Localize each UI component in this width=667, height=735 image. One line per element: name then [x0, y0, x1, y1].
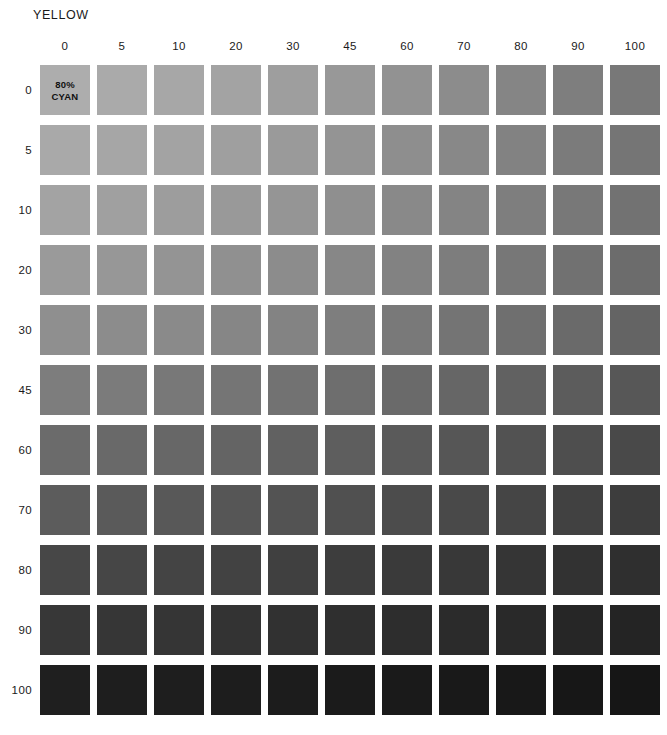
row-header-100: 100: [0, 665, 32, 715]
swatch-y20-m100: [211, 665, 261, 715]
swatch-y90-m70: [553, 485, 603, 535]
swatch-y60-m10: [382, 185, 432, 235]
swatch-y80-m10: [496, 185, 546, 235]
swatch-y70-m100: [439, 665, 489, 715]
swatch-y70-m10: [439, 185, 489, 235]
swatch-y45-m80: [325, 545, 375, 595]
swatch-y100-m10: [610, 185, 660, 235]
swatch-y60-m100: [382, 665, 432, 715]
swatch-y5-m70: [97, 485, 147, 535]
swatch-y5-m10: [97, 185, 147, 235]
swatch-y100-m60: [610, 425, 660, 475]
swatch-y80-m20: [496, 245, 546, 295]
swatch-y45-m5: [325, 125, 375, 175]
swatch-y45-m0: [325, 65, 375, 115]
swatch-y30-m30: [268, 305, 318, 355]
swatch-y45-m100: [325, 665, 375, 715]
swatch-y10-m70: [154, 485, 204, 535]
swatch-y30-m10: [268, 185, 318, 235]
page-title: YELLOW: [33, 8, 89, 22]
swatch-y80-m60: [496, 425, 546, 475]
swatch-y0-m30: [40, 305, 90, 355]
swatch-grid: 80%CYAN: [40, 65, 660, 730]
swatch-y20-m90: [211, 605, 261, 655]
row-header-45: 45: [0, 365, 32, 415]
swatch-y5-m80: [97, 545, 147, 595]
swatch-y5-m90: [97, 605, 147, 655]
column-header-0: 0: [40, 40, 90, 52]
swatch-y80-m80: [496, 545, 546, 595]
swatch-y90-m90: [553, 605, 603, 655]
swatch-y90-m80: [553, 545, 603, 595]
column-header-10: 10: [154, 40, 204, 52]
swatch-y70-m80: [439, 545, 489, 595]
swatch-y60-m60: [382, 425, 432, 475]
base-ink-label-line1: 80%: [40, 79, 90, 91]
swatch-y100-m5: [610, 125, 660, 175]
row-header-90: 90: [0, 605, 32, 655]
swatch-y60-m20: [382, 245, 432, 295]
swatch-y0-m70: [40, 485, 90, 535]
base-ink-label-line2: CYAN: [40, 90, 90, 102]
swatch-y30-m60: [268, 425, 318, 475]
swatch-y10-m0: [154, 65, 204, 115]
swatch-y80-m5: [496, 125, 546, 175]
swatch-y60-m80: [382, 545, 432, 595]
swatch-y30-m100: [268, 665, 318, 715]
swatch-y80-m45: [496, 365, 546, 415]
swatch-y70-m5: [439, 125, 489, 175]
row-header-80: 80: [0, 545, 32, 595]
swatch-y60-m45: [382, 365, 432, 415]
swatch-y70-m60: [439, 425, 489, 475]
swatch-y100-m20: [610, 245, 660, 295]
column-header-30: 30: [268, 40, 318, 52]
swatch-y20-m5: [211, 125, 261, 175]
swatch-y45-m45: [325, 365, 375, 415]
swatch-y0-m80: [40, 545, 90, 595]
swatch-y70-m90: [439, 605, 489, 655]
swatch-y70-m45: [439, 365, 489, 415]
swatch-y5-m5: [97, 125, 147, 175]
swatch-y10-m100: [154, 665, 204, 715]
column-header-90: 90: [553, 40, 603, 52]
swatch-y100-m100: [610, 665, 660, 715]
column-header-70: 70: [439, 40, 489, 52]
column-header-60: 60: [382, 40, 432, 52]
row-header-column: 051020304560708090100: [0, 65, 38, 725]
swatch-y30-m45: [268, 365, 318, 415]
swatch-y45-m20: [325, 245, 375, 295]
swatch-y80-m70: [496, 485, 546, 535]
swatch-y30-m70: [268, 485, 318, 535]
swatch-y5-m100: [97, 665, 147, 715]
row-header-60: 60: [0, 425, 32, 475]
swatch-y70-m30: [439, 305, 489, 355]
swatch-y45-m90: [325, 605, 375, 655]
row-header-5: 5: [0, 125, 32, 175]
swatch-y0-m0: 80%CYAN: [40, 65, 90, 115]
swatch-y100-m80: [610, 545, 660, 595]
swatch-y30-m20: [268, 245, 318, 295]
swatch-y5-m0: [97, 65, 147, 115]
swatch-y45-m70: [325, 485, 375, 535]
column-header-5: 5: [97, 40, 147, 52]
color-chart: YELLOW 051020304560708090100 05102030456…: [0, 0, 667, 735]
swatch-y80-m30: [496, 305, 546, 355]
swatch-y10-m60: [154, 425, 204, 475]
swatch-y10-m45: [154, 365, 204, 415]
swatch-y10-m5: [154, 125, 204, 175]
swatch-y70-m0: [439, 65, 489, 115]
base-ink-label: 80%CYAN: [40, 79, 90, 102]
swatch-y20-m80: [211, 545, 261, 595]
swatch-y0-m20: [40, 245, 90, 295]
swatch-y90-m45: [553, 365, 603, 415]
swatch-y30-m80: [268, 545, 318, 595]
swatch-y90-m100: [553, 665, 603, 715]
column-header-row: 051020304560708090100: [40, 40, 660, 60]
swatch-y60-m30: [382, 305, 432, 355]
swatch-y30-m90: [268, 605, 318, 655]
swatch-y20-m20: [211, 245, 261, 295]
swatch-y10-m10: [154, 185, 204, 235]
swatch-y100-m70: [610, 485, 660, 535]
swatch-y100-m30: [610, 305, 660, 355]
swatch-y60-m70: [382, 485, 432, 535]
